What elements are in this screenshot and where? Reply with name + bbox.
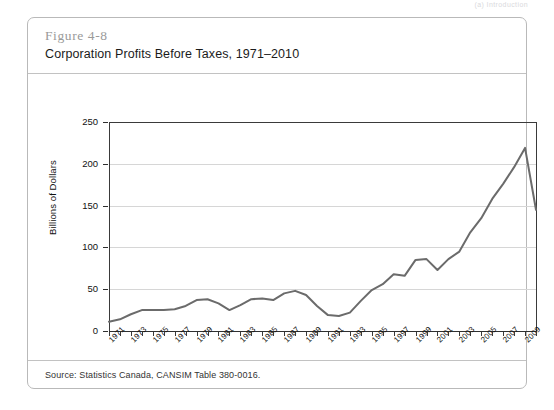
plot-frame-right bbox=[536, 122, 537, 332]
figure-number: Figure 4-8 bbox=[45, 28, 526, 44]
figure-title: Corporation Profits Before Taxes, 1971–2… bbox=[45, 45, 526, 63]
running-head: (a) Introduction bbox=[398, 0, 528, 9]
footer-divider bbox=[28, 360, 526, 361]
figure-box: Figure 4-8 Corporation Profits Before Ta… bbox=[27, 17, 527, 389]
chart-area: Billions of Dollars 050100150200250 1971… bbox=[28, 74, 526, 363]
series-line-chart bbox=[28, 74, 526, 363]
series-line-path bbox=[109, 148, 536, 322]
x-tick-mark bbox=[536, 332, 537, 336]
figure-header: Figure 4-8 Corporation Profits Before Ta… bbox=[28, 18, 526, 69]
source-note: Source: Statistics Canada, CANSIM Table … bbox=[45, 370, 260, 380]
